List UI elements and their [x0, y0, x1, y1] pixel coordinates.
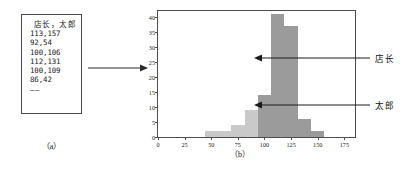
data-text-box: 店长，太郎 113,157 92,54 100,106 112,131 100,…: [21, 14, 82, 114]
panel-b: 05101520253035400255075100125150175 （b）: [150, 0, 409, 171]
x-axis-tick-mark: [291, 137, 292, 140]
panel-b-caption: （b）: [230, 148, 250, 159]
y-axis-tick-mark: [155, 107, 158, 108]
y-axis-tick-mark: [155, 77, 158, 78]
x-axis-tick-label: 25: [182, 141, 188, 148]
data-box-continuation: ……: [30, 84, 81, 93]
data-box-row: 86,42: [30, 75, 81, 84]
x-axis-tick-label: 0: [156, 141, 159, 148]
data-box-row: 100,109: [30, 66, 81, 75]
data-box-row: 112,131: [30, 57, 81, 66]
y-axis-tick-mark: [155, 17, 158, 18]
x-axis-tick-mark: [264, 137, 265, 140]
histogram-bar: [284, 26, 297, 137]
x-axis-tick-label: 125: [286, 141, 295, 148]
x-axis-tick-label: 50: [208, 141, 214, 148]
panel-a: 店长，太郎 113,157 92,54 100,106 112,131 100,…: [0, 0, 150, 171]
y-axis-tick-mark: [155, 47, 158, 48]
histogram-bar: [258, 95, 271, 137]
data-box-row: 100,106: [30, 48, 81, 57]
x-axis-tick-mark: [238, 137, 239, 140]
x-axis-tick-mark: [344, 137, 345, 140]
y-axis-tick-mark: [155, 92, 158, 93]
histogram-bar: [245, 110, 258, 137]
histogram-plot-area: 05101520253035400255075100125150175: [157, 10, 356, 138]
x-axis-tick-label: 75: [235, 141, 241, 148]
histogram-bar: [231, 125, 244, 137]
x-axis-tick-label: 175: [340, 141, 349, 148]
x-axis-tick-mark: [211, 137, 212, 140]
y-axis-tick-mark: [155, 32, 158, 33]
data-box-header: 店长，太郎: [30, 20, 81, 29]
histogram-bars: [158, 11, 355, 137]
data-box-row: 92,54: [30, 38, 81, 47]
data-box-row: 113,157: [30, 29, 81, 38]
x-axis-tick-label: 150: [313, 141, 322, 148]
flow-arrow-icon: [88, 60, 148, 72]
x-axis-tick-mark: [185, 137, 186, 140]
figure-root: 店长，太郎 113,157 92,54 100,106 112,131 100,…: [0, 0, 409, 171]
x-axis-tick-mark: [158, 137, 159, 140]
histogram-bar: [218, 131, 231, 137]
y-axis-tick-mark: [155, 62, 158, 63]
x-axis-tick-label: 100: [260, 141, 269, 148]
panel-a-caption: （a）: [21, 140, 82, 151]
histogram-bar: [298, 119, 311, 137]
y-axis-tick-mark: [155, 122, 158, 123]
x-axis-tick-mark: [318, 137, 319, 140]
histogram-bar: [271, 14, 284, 137]
